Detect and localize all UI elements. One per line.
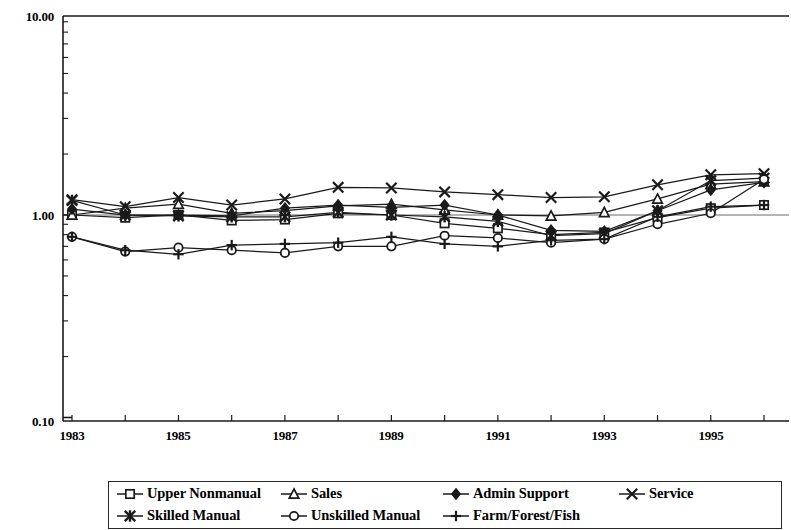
line-chart-plot xyxy=(0,0,791,470)
legend-label-skilled-manual: Skilled Manual xyxy=(147,504,240,527)
x-axis-label-1985: 1985 xyxy=(148,428,208,444)
open-circle-icon xyxy=(281,509,307,523)
legend-item-farm-forest-fish[interactable]: Farm/Forest/Fish xyxy=(443,504,580,527)
legend-row-2: Skilled Manual Unskilled Manual Farm/For… xyxy=(109,504,781,527)
filled-star-icon xyxy=(117,509,143,523)
legend-label-farm-forest-fish: Farm/Forest/Fish xyxy=(473,504,580,527)
legend-item-admin-support[interactable]: Admin Support xyxy=(443,482,569,505)
chart-page: 10.00 1.00 0.10 1983 1985 1987 1989 1991… xyxy=(0,0,791,530)
x-axis-label-1991: 1991 xyxy=(468,428,528,444)
cross-x-icon xyxy=(619,487,645,501)
legend-item-upper-nonmanual[interactable]: Upper Nonmanual xyxy=(117,482,261,505)
legend-label-unskilled-manual: Unskilled Manual xyxy=(311,504,420,527)
legend-label-service: Service xyxy=(649,482,693,505)
plus-icon xyxy=(443,509,469,523)
x-axis-label-1995: 1995 xyxy=(681,428,741,444)
legend-label-admin-support: Admin Support xyxy=(473,482,569,505)
legend-row-1: Upper Nonmanual Sales Admin Support Serv… xyxy=(109,482,781,505)
legend-item-skilled-manual[interactable]: Skilled Manual xyxy=(117,504,240,527)
x-axis-label-1989: 1989 xyxy=(361,428,421,444)
filled-diamond-icon xyxy=(443,487,469,501)
x-axis-label-1983: 1983 xyxy=(42,428,102,444)
x-axis-label-1987: 1987 xyxy=(255,428,315,444)
legend-item-unskilled-manual[interactable]: Unskilled Manual xyxy=(281,504,420,527)
legend-item-service[interactable]: Service xyxy=(619,482,693,505)
legend-label-sales: Sales xyxy=(311,482,342,505)
x-axis-label-1993: 1993 xyxy=(574,428,634,444)
chart-legend: Upper Nonmanual Sales Admin Support Serv… xyxy=(108,481,782,529)
open-triangle-icon xyxy=(281,487,307,501)
legend-label-upper-nonmanual: Upper Nonmanual xyxy=(147,482,261,505)
legend-item-sales[interactable]: Sales xyxy=(281,482,342,505)
open-square-icon xyxy=(117,487,143,501)
